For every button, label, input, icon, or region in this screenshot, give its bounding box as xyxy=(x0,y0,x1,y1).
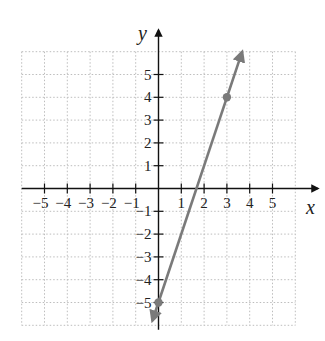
data-point xyxy=(223,93,231,101)
x-tick-label: 5 xyxy=(269,195,277,211)
y-tick-label: 4 xyxy=(144,89,152,105)
y-tick-label: −4 xyxy=(136,272,152,288)
y-tick-label: 1 xyxy=(144,158,152,174)
y-tick-label: −5 xyxy=(136,295,152,311)
y-tick-label: −3 xyxy=(136,249,152,265)
x-axis-label: x xyxy=(305,196,315,218)
line-y-equals-3x-minus-5 xyxy=(152,52,242,321)
x-tick-label: −3 xyxy=(78,195,94,211)
x-tick-label: 4 xyxy=(246,195,254,211)
x-tick-label: 3 xyxy=(223,195,231,211)
y-tick-label: −1 xyxy=(136,203,152,219)
x-tick-label: 1 xyxy=(178,195,186,211)
x-tick-label: −2 xyxy=(101,195,117,211)
y-tick-label: 5 xyxy=(144,67,152,83)
y-tick-label: 2 xyxy=(144,135,152,151)
x-tick-label: 2 xyxy=(200,195,208,211)
coordinate-plane: −5−4−3−2−11234554321−1−2−3−4−5 x y xyxy=(0,0,325,341)
plotted-line xyxy=(152,52,242,321)
data-point xyxy=(154,298,162,306)
x-tick-label: −4 xyxy=(55,195,71,211)
y-tick-label: 3 xyxy=(144,112,152,128)
x-tick-label: −5 xyxy=(33,195,49,211)
y-axis-label: y xyxy=(136,22,147,45)
y-tick-label: −2 xyxy=(136,226,152,242)
